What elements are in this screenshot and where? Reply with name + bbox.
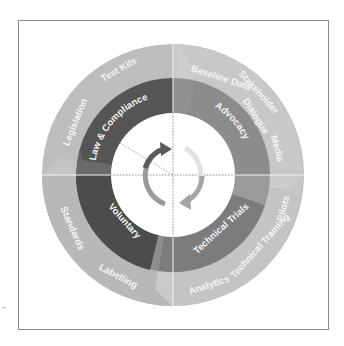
ring-diagram: Law & Compliance Advocacy Technical Tria… xyxy=(0,0,344,346)
